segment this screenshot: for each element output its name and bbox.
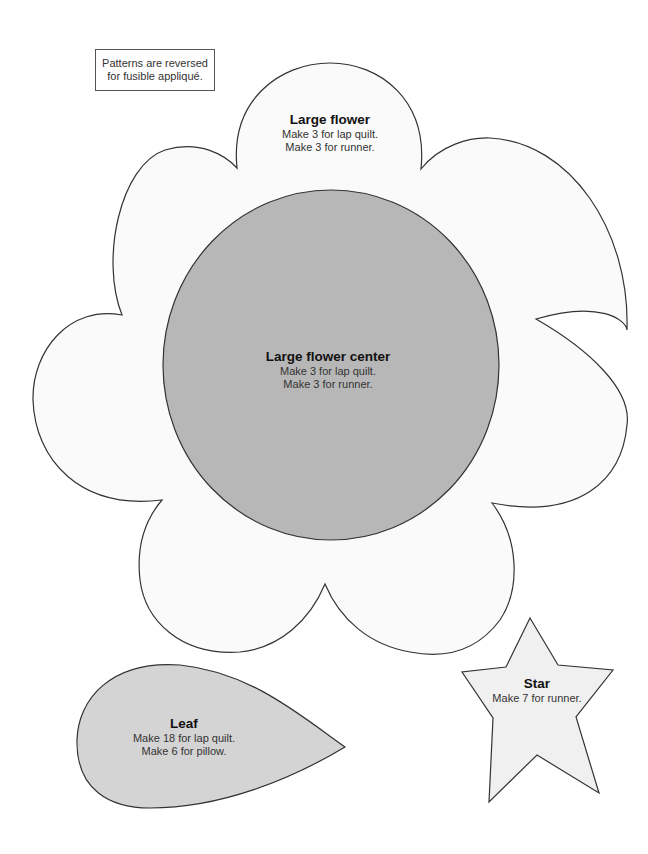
note-line-1: Patterns are reversed: [102, 57, 208, 70]
large-flower-line-2: Make 3 for runner.: [282, 141, 378, 154]
large-flower-line-1: Make 3 for lap quilt.: [282, 128, 378, 141]
leaf-label: Leaf Make 18 for lap quilt. Make 6 for p…: [133, 716, 235, 758]
large-flower-center-title: Large flower center: [266, 349, 391, 365]
large-flower-center-line-2: Make 3 for runner.: [266, 378, 391, 391]
star-label: Star Make 7 for runner.: [492, 676, 581, 705]
large-flower-center-line-1: Make 3 for lap quilt.: [266, 365, 391, 378]
leaf-line-1: Make 18 for lap quilt.: [133, 732, 235, 745]
star-title: Star: [492, 676, 581, 692]
star-shape: [462, 618, 613, 802]
note-line-2: for fusible appliqué.: [107, 70, 202, 83]
leaf-line-2: Make 6 for pillow.: [133, 745, 235, 758]
large-flower-title: Large flower: [282, 112, 378, 128]
large-flower-center-label: Large flower center Make 3 for lap quilt…: [266, 349, 391, 391]
leaf-title: Leaf: [133, 716, 235, 732]
large-flower-label: Large flower Make 3 for lap quilt. Make …: [282, 112, 378, 154]
star-line-1: Make 7 for runner.: [492, 692, 581, 705]
reversal-note: Patterns are reversed for fusible appliq…: [95, 49, 215, 91]
